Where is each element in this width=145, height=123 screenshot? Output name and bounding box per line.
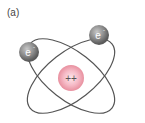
nucleus-label: ++ <box>65 73 77 84</box>
electron-2: e - <box>89 25 109 45</box>
svg-text:e: e <box>95 30 101 41</box>
svg-text:-: - <box>103 27 105 33</box>
nucleus: ++ <box>58 65 84 91</box>
atom-diagram: ++ e - e - <box>0 0 145 123</box>
electron-1: e - <box>19 42 39 62</box>
svg-text:-: - <box>33 44 35 50</box>
svg-text:e: e <box>25 47 31 58</box>
